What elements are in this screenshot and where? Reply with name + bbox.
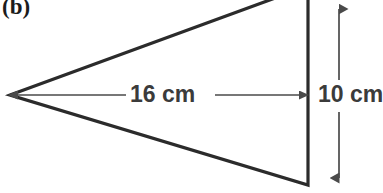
height-dimension-label: 10 cm	[318, 83, 383, 106]
base-dimension-label: 16 cm	[130, 83, 195, 106]
panel-label: (b)	[2, 0, 30, 18]
